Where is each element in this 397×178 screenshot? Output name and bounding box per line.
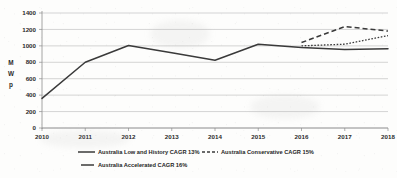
x-tick-label: 2012	[122, 133, 136, 140]
y-axis-labels: 1400 1200 1000 800 600 400 200 0	[22, 9, 36, 131]
x-tick-label: 2017	[338, 133, 352, 140]
x-tick-label: 2014	[208, 133, 222, 140]
chart-container: 1400 1200 1000 800 600 400 200 0 M W p	[0, 0, 397, 178]
y-axis-title-char: M	[8, 59, 13, 66]
x-tick-label: 2011	[79, 133, 93, 140]
x-tick-label: 2013	[165, 133, 179, 140]
y-axis-title-char: p	[9, 81, 13, 89]
series-line-conservative	[302, 36, 389, 46]
x-tickmarks	[42, 128, 388, 131]
y-tick-label: 1200	[22, 26, 36, 33]
series-line-accelerated	[302, 27, 389, 43]
y-tick-label: 1400	[22, 9, 36, 16]
y-tick-label: 600	[26, 75, 37, 82]
y-tick-label: 0	[33, 124, 37, 131]
y-tick-label: 1000	[22, 42, 36, 49]
x-tick-label: 2015	[251, 133, 265, 140]
x-axis-labels: 2010 2011 2012 2013 2014 2015 2016 2017 …	[35, 133, 395, 140]
chart-legend: Australia Low and History CAGR 13% Austr…	[78, 149, 314, 168]
legend-label-accelerated[interactable]: Australia Accelerated CAGR 16%	[98, 162, 187, 168]
series-line-low-and-history	[42, 44, 388, 98]
x-tick-label: 2010	[35, 133, 49, 140]
y-tick-label: 400	[26, 91, 37, 98]
legend-label-low-and-history[interactable]: Australia Low and History CAGR 13%	[98, 149, 199, 155]
line-chart-plot: 1400 1200 1000 800 600 400 200 0 M W p	[0, 0, 397, 178]
x-tick-label: 2016	[295, 133, 309, 140]
y-tick-label: 200	[26, 108, 37, 115]
y-axis-title-char: W	[8, 70, 15, 77]
y-tickmarks	[39, 13, 42, 128]
x-tick-label: 2018	[381, 133, 395, 140]
y-axis-title: M W p	[8, 59, 15, 89]
y-tick-label: 800	[26, 58, 37, 65]
legend-label-conservative[interactable]: Australia Conservative CAGR 15%	[221, 149, 314, 155]
